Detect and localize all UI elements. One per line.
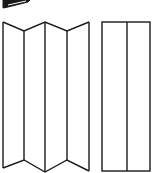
pen-wedge-icon xyxy=(3,0,30,8)
flat-screen-frame xyxy=(102,22,150,171)
flat-screen xyxy=(102,22,150,171)
folded-screen-bottom-edge xyxy=(3,160,89,172)
folded-screen xyxy=(3,22,89,172)
folded-screen-top-edge xyxy=(3,22,89,31)
folding-screen-diagram xyxy=(0,0,152,173)
